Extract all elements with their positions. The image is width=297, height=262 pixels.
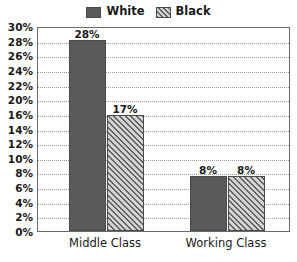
y-axis: 30%28%26%24%22%20%16%14%12%10%8%6%4%2%0% [0, 27, 33, 232]
y-tick-label: 6% [15, 183, 33, 194]
y-tick-label: 22% [8, 80, 33, 91]
legend-swatch-black-icon [156, 7, 171, 18]
bar-value-label: 8% [199, 165, 217, 176]
legend-entry-black: Black [156, 6, 211, 18]
y-tick-label: 28% [8, 36, 33, 47]
y-tick-label: 10% [8, 154, 33, 165]
legend-entry-white: White [86, 6, 144, 18]
bar-white-0 [69, 40, 106, 231]
y-tick-label: 2% [15, 212, 33, 223]
x-category-label: Working Class [186, 238, 267, 250]
legend-label-black: Black [176, 6, 211, 18]
bar-value-label: 28% [74, 29, 99, 40]
legend-label-white: White [106, 6, 144, 18]
y-tick-label: 20% [8, 95, 33, 106]
bar-white-1 [190, 176, 227, 231]
y-tick-label: 26% [8, 51, 33, 62]
y-tick-label: 4% [15, 197, 33, 208]
y-tick-label: 30% [8, 22, 33, 33]
bar-value-label: 17% [112, 104, 137, 115]
y-tick-label: 16% [8, 110, 33, 121]
y-tick-label: 12% [8, 139, 33, 150]
bar-value-label: 8% [237, 165, 255, 176]
legend-swatch-white-icon [86, 7, 101, 18]
chart-legend: White Black [0, 3, 297, 21]
bar-chart: White Black 30%28%26%24%22%20%16%14%12%1… [0, 0, 297, 262]
bar-black-1 [228, 176, 265, 231]
y-tick-label: 8% [15, 168, 33, 179]
x-axis: Middle ClassWorking Class [37, 234, 290, 256]
x-category-label: Middle Class [69, 238, 141, 250]
plot-area: 28%17%8%8% [37, 27, 290, 232]
bar-black-0 [107, 115, 144, 231]
y-tick-label: 14% [8, 124, 33, 135]
y-tick-label: 0% [15, 227, 33, 238]
y-tick-label: 24% [8, 66, 33, 77]
